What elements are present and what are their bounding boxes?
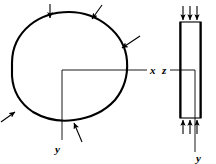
load-arrow-bottom-left — [1, 112, 15, 122]
z-axis-label: z — [161, 64, 167, 76]
load-arrow-right — [122, 36, 140, 48]
load-arrow-top-right — [92, 5, 102, 19]
left-view-group: x y — [1, 4, 156, 155]
y-axis-label-left: y — [53, 143, 60, 155]
load-arrow-bottom — [74, 123, 82, 142]
cross-section-outline — [12, 12, 127, 121]
y-axis-label-right: y — [194, 152, 201, 164]
figure-canvas: x y z y — [0, 0, 216, 164]
engineering-figure: x y z y — [0, 0, 216, 164]
right-view-group: z y — [161, 6, 201, 164]
x-axis-label: x — [149, 64, 156, 76]
